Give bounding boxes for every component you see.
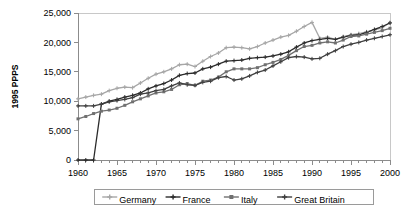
data-point-marker <box>334 41 337 44</box>
data-point-marker <box>389 27 392 30</box>
data-point-marker <box>256 66 259 69</box>
data-point-marker <box>233 67 236 70</box>
data-point-marker <box>248 67 251 70</box>
chart-container: 05,00010,00015,00020,00025,000 196019651… <box>0 0 413 216</box>
data-point-marker <box>303 45 306 48</box>
x-tick-label: 1960 <box>68 168 88 178</box>
y-tick-label: 0 <box>66 155 71 165</box>
legend-marker-icon <box>229 195 233 199</box>
line-chart: 05,00010,00015,00020,00025,000 196019651… <box>0 0 413 216</box>
x-tick-label: 1995 <box>341 168 361 178</box>
data-point-marker <box>272 61 275 64</box>
data-point-marker <box>77 117 80 120</box>
data-point-marker <box>365 33 368 36</box>
x-tick-label: 1965 <box>107 168 127 178</box>
data-point-marker <box>326 40 329 43</box>
legend-label-france: France <box>183 195 211 205</box>
data-point-marker <box>381 29 384 32</box>
x-tick-label: 2000 <box>380 168 400 178</box>
y-tick-label: 5,000 <box>48 126 71 136</box>
data-point-marker <box>373 31 376 34</box>
data-point-marker <box>240 67 243 70</box>
data-point-marker <box>92 112 95 115</box>
data-point-marker <box>350 35 353 38</box>
x-tick-label: 1990 <box>302 168 322 178</box>
data-point-marker <box>116 107 119 110</box>
x-tick-label: 1980 <box>224 168 244 178</box>
data-point-marker <box>131 100 134 103</box>
data-point-marker <box>342 39 345 42</box>
data-point-marker <box>108 109 111 112</box>
y-tick-label: 15,000 <box>43 67 71 77</box>
chart-legend: GermanyFranceItalyGreat Britain <box>94 190 374 205</box>
x-tick-label: 1985 <box>263 168 283 178</box>
data-point-marker <box>139 97 142 100</box>
legend-label-great-britain: Great Britain <box>294 195 345 205</box>
data-point-marker <box>123 104 126 107</box>
data-point-marker <box>84 115 87 118</box>
x-tick-label: 1975 <box>185 168 205 178</box>
y-tick-label: 25,000 <box>43 8 71 18</box>
legend-label-germany: Germany <box>119 195 157 205</box>
data-point-marker <box>170 88 173 91</box>
data-point-marker <box>357 34 360 37</box>
legend-label-italy: Italy <box>241 195 258 205</box>
data-point-marker <box>100 110 103 113</box>
data-point-marker <box>264 63 267 66</box>
data-point-marker <box>318 41 321 44</box>
chart-background <box>0 0 413 216</box>
x-tick-label: 1970 <box>146 168 166 178</box>
y-tick-label: 20,000 <box>43 38 71 48</box>
y-axis-title: 1995 PPPS <box>10 64 20 108</box>
data-point-marker <box>225 70 228 73</box>
y-tick-label: 10,000 <box>43 96 71 106</box>
y-axis-title-text: 1995 PPPS <box>10 64 20 108</box>
data-point-marker <box>311 44 314 47</box>
data-point-marker <box>295 49 298 52</box>
